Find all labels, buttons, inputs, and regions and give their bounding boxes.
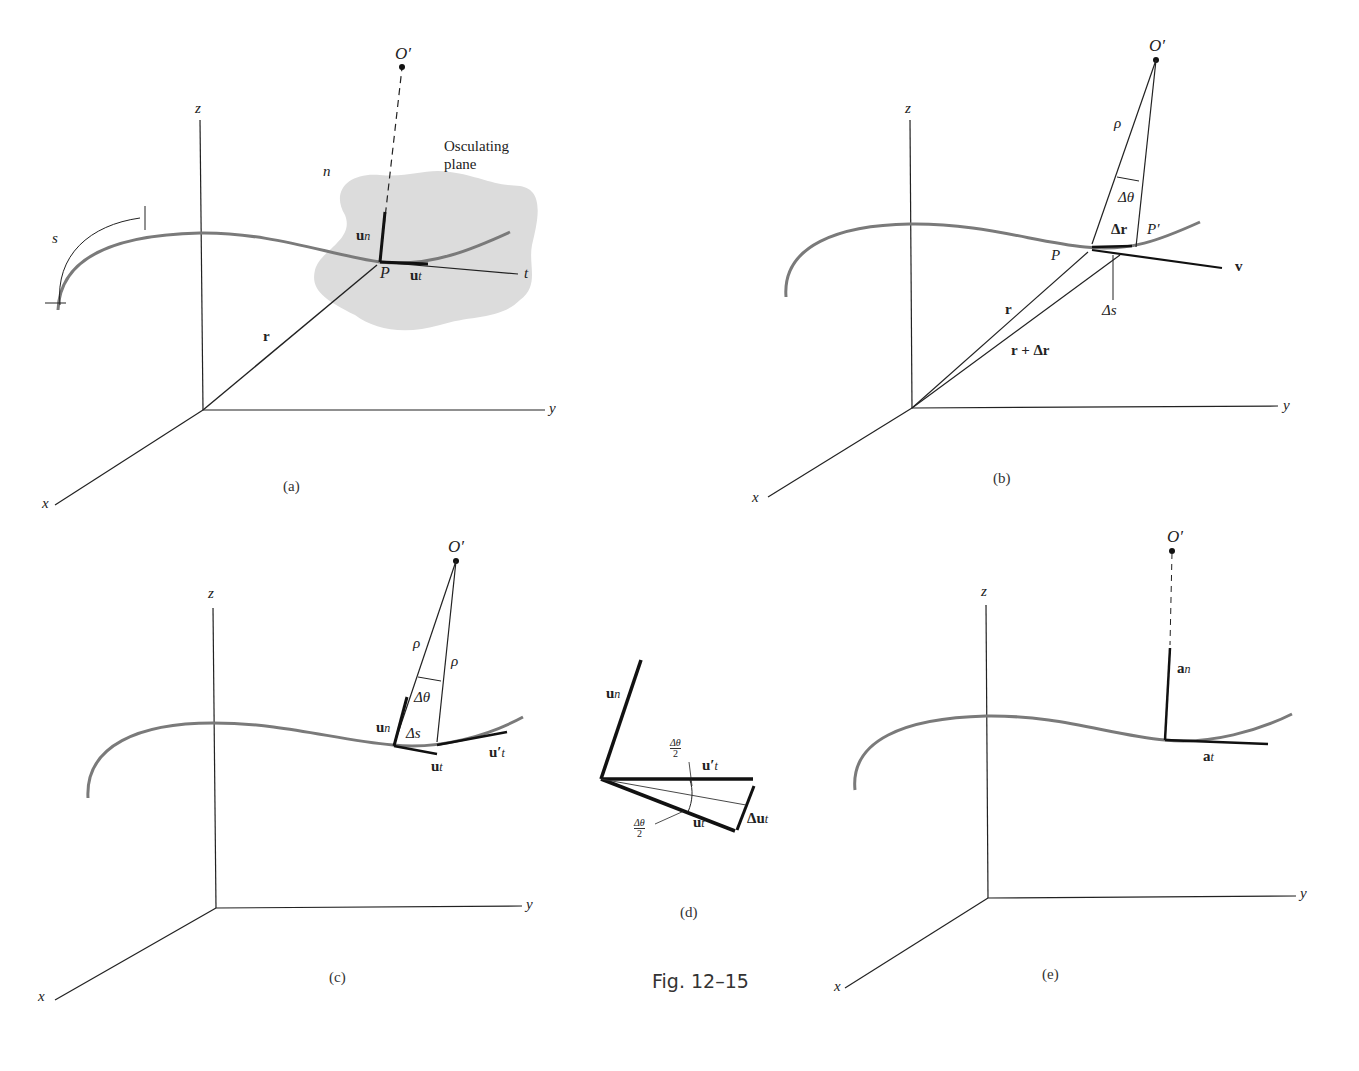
panel-c-label: (c) [329, 969, 346, 986]
bisector-line [601, 779, 746, 805]
delta-ut-label: Δut [747, 810, 768, 827]
center-label: O′ [1149, 36, 1165, 56]
radius-label: ρ [1114, 115, 1121, 132]
un-label: un [376, 719, 390, 736]
ut-prime-label: u′t [702, 757, 718, 774]
ut-prime-label: u′t [489, 744, 505, 761]
panel-d-label: (d) [680, 904, 698, 921]
panel-a [45, 64, 545, 505]
normal-acceleration-vector [1165, 648, 1170, 740]
z-axis [986, 605, 988, 898]
z-axis-label: z [981, 583, 987, 600]
z-axis-label: z [905, 100, 911, 117]
y-axis [912, 406, 1278, 408]
y-axis-label: y [526, 896, 533, 913]
point-p-label: P [1051, 247, 1060, 264]
z-axis [910, 120, 912, 408]
z-axis [200, 120, 203, 410]
path-curve [855, 714, 1292, 790]
position-vector-r-plus-dr [912, 255, 1120, 408]
arc-length-dimension [60, 218, 140, 305]
y-axis [216, 906, 522, 908]
delta-s-label: Δs [1102, 302, 1117, 319]
ut-label: ut [693, 814, 705, 831]
x-axis [845, 898, 988, 988]
angle-label: Δθ [414, 689, 430, 706]
x-axis [55, 410, 203, 505]
y-axis-label: y [1300, 885, 1307, 902]
normal-line [1170, 553, 1172, 645]
delta-r-label: Δr [1111, 221, 1127, 238]
angle-label: Δθ [1118, 189, 1134, 206]
r-vector-label: r [1005, 301, 1012, 318]
ut-label: ut [410, 267, 422, 284]
panel-b [768, 57, 1278, 497]
y-axis-label: y [1283, 397, 1290, 414]
delta-r-vector [1092, 246, 1132, 247]
point-p-label: P [380, 264, 390, 282]
arc-length-label: s [52, 230, 58, 247]
center-of-curvature [399, 64, 405, 70]
y-axis-label: y [549, 400, 556, 417]
an-label: an [1177, 660, 1191, 677]
z-axis-label: z [195, 100, 201, 117]
center-label: O′ [1167, 527, 1183, 547]
r-vector-label: r [263, 328, 270, 345]
plane-label-line-1: Osculating [444, 138, 509, 154]
position-vector-r [203, 265, 377, 410]
plane-label-line-2: plane [444, 156, 476, 172]
panel-c [55, 558, 523, 1000]
velocity-vector [1092, 250, 1222, 268]
un-label: un [356, 227, 370, 244]
x-axis [768, 408, 912, 497]
unit-tangent-vector [601, 779, 735, 831]
panel-b-label: (b) [993, 470, 1011, 487]
x-axis-label: x [834, 978, 841, 995]
r-plus-dr-label: r + Δr [1011, 342, 1050, 359]
center-label: O′ [395, 44, 411, 64]
angle-dimension [1117, 177, 1139, 181]
x-axis-label: x [38, 988, 45, 1005]
velocity-label: v [1235, 258, 1243, 275]
point-p-prime-label: P′ [1147, 221, 1159, 238]
un-label: un [606, 685, 620, 702]
half-angle-arcs [688, 780, 692, 812]
panel-e [845, 548, 1296, 988]
osculating-plane-label: Osculatingplane [444, 137, 509, 173]
unit-normal-vector [601, 660, 641, 779]
tangent-axis-label: t [524, 265, 528, 282]
figure-caption: Fig. 12–15 [652, 970, 749, 992]
osculating-plane [314, 171, 538, 330]
z-axis-label: z [208, 585, 214, 602]
normal-axis-label: n [323, 163, 331, 180]
angle-dimension [418, 677, 441, 681]
radius-2-label: ρ [451, 653, 458, 670]
at-label: at [1203, 748, 1214, 765]
panel-e-label: (e) [1042, 966, 1059, 983]
path-curve [88, 717, 523, 798]
ut-label: ut [431, 758, 443, 775]
panel-a-label: (a) [283, 478, 300, 495]
half-angle-upper: Δθ2 [670, 737, 681, 759]
z-axis [213, 608, 216, 908]
radius-1-label: ρ [413, 635, 420, 652]
position-vector-r [912, 252, 1088, 408]
half-angle-lower: Δθ2 [634, 817, 645, 839]
y-axis [988, 896, 1296, 898]
x-axis-label: x [752, 489, 759, 506]
x-axis [55, 908, 216, 1000]
x-axis-label: x [42, 495, 49, 512]
delta-s-label: Δs [406, 725, 421, 742]
center-label: O′ [448, 537, 464, 557]
